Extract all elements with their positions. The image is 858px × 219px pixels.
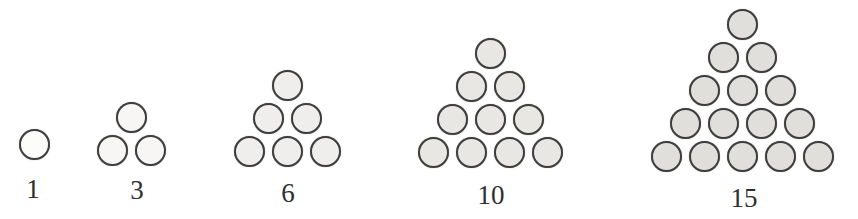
circle xyxy=(418,137,449,168)
circle xyxy=(456,71,487,102)
circle xyxy=(708,108,739,139)
circle xyxy=(727,75,758,106)
circle xyxy=(291,103,322,134)
circle xyxy=(727,9,758,40)
circle xyxy=(272,70,303,101)
circle xyxy=(689,141,720,172)
circle xyxy=(784,108,815,139)
circle xyxy=(494,137,525,168)
circle xyxy=(513,104,544,135)
count-label: 1 xyxy=(1,175,65,203)
figure-triangular-numbers: 1361015 xyxy=(0,0,858,219)
circle xyxy=(765,141,796,172)
circle xyxy=(689,75,720,106)
circle xyxy=(135,135,166,166)
circle xyxy=(253,103,284,134)
circle xyxy=(746,42,777,73)
circle xyxy=(97,135,128,166)
triangle-group-1: 1 xyxy=(0,0,858,219)
circle xyxy=(116,102,147,133)
count-label: 15 xyxy=(712,184,776,212)
circle xyxy=(437,104,468,135)
circle xyxy=(670,108,701,139)
triangle-group-4: 10 xyxy=(0,0,858,219)
circle xyxy=(803,141,834,172)
circle xyxy=(234,136,265,167)
circle xyxy=(475,38,506,69)
circle xyxy=(456,137,487,168)
circle xyxy=(272,136,303,167)
count-label: 3 xyxy=(105,176,169,204)
count-label: 10 xyxy=(459,181,523,209)
circle xyxy=(727,141,758,172)
circle xyxy=(494,71,525,102)
circle xyxy=(532,137,563,168)
circle xyxy=(708,42,739,73)
circle xyxy=(746,108,777,139)
circle xyxy=(19,129,50,160)
triangle-group-5: 15 xyxy=(0,0,858,219)
count-label: 6 xyxy=(256,179,320,207)
triangle-group-2: 3 xyxy=(0,0,858,219)
circle xyxy=(651,141,682,172)
circle xyxy=(765,75,796,106)
circle xyxy=(475,104,506,135)
triangle-group-3: 6 xyxy=(0,0,858,219)
circle xyxy=(310,136,341,167)
